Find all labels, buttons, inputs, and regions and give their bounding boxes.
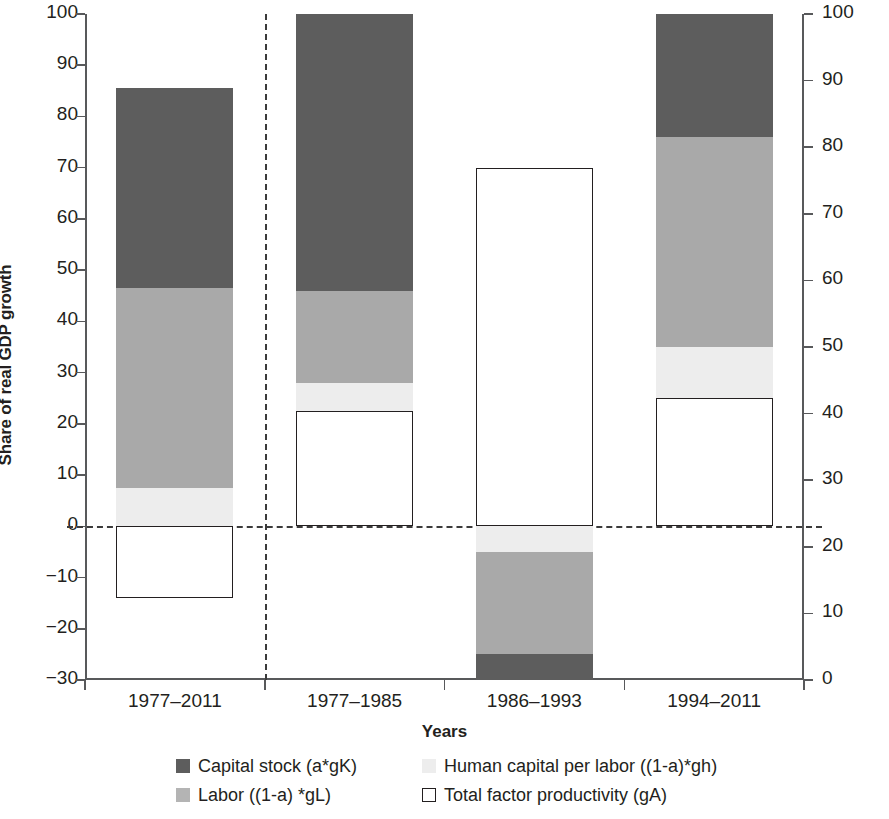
bar-segment-human-capital-per-labor[interactable] xyxy=(476,526,593,552)
plot-area xyxy=(85,14,804,680)
y-tick-label-right: 90 xyxy=(822,68,882,90)
legend-item[interactable]: Human capital per labor ((1-a)*gh) xyxy=(422,756,717,776)
bar-segment-labor[interactable] xyxy=(116,288,233,488)
bar-segment-total-factor-productivity[interactable] xyxy=(296,411,413,526)
bar-segment-labor[interactable] xyxy=(656,137,773,347)
y-tick-mark-right xyxy=(804,346,813,348)
y-axis-left-ticks: 1009080706050403020100−10−20−30 xyxy=(20,0,78,819)
bar-segment-labor[interactable] xyxy=(296,291,413,383)
y-tick-label-left: 20 xyxy=(22,411,78,433)
bar-segment-total-factor-productivity[interactable] xyxy=(656,398,773,526)
y-tick-label-right: 100 xyxy=(822,1,882,23)
y-tick-mark-right xyxy=(804,679,813,681)
y-tick-mark-right xyxy=(804,546,813,548)
y-tick-mark-right xyxy=(804,479,813,481)
y-tick-mark-left xyxy=(76,13,85,15)
x-tick-mark xyxy=(624,680,626,690)
y-tick-mark-right xyxy=(804,80,813,82)
bar-group[interactable] xyxy=(296,14,413,680)
y-tick-mark-left xyxy=(76,628,85,630)
bar-group[interactable] xyxy=(116,14,233,680)
legend-swatch-labor-icon xyxy=(176,788,190,802)
bar-segment-labor[interactable] xyxy=(476,552,593,654)
bar-segment-capital-stock[interactable] xyxy=(656,14,773,137)
y-tick-mark-left xyxy=(76,64,85,66)
y-tick-mark-left xyxy=(76,423,85,425)
y-tick-mark-left xyxy=(76,269,85,271)
y-tick-mark-right xyxy=(804,413,813,415)
period-separator-line xyxy=(265,14,267,680)
y-tick-label-right: 30 xyxy=(822,467,882,489)
legend-label: Human capital per labor ((1-a)*gh) xyxy=(444,756,717,776)
y-tick-mark-right xyxy=(804,13,813,15)
bar-group[interactable] xyxy=(656,14,773,680)
y-tick-label-right: 20 xyxy=(822,534,882,556)
x-tick-label: 1994–2011 xyxy=(624,690,804,712)
y-tick-label-right: 0 xyxy=(822,667,882,689)
y-tick-label-left: 80 xyxy=(22,103,78,125)
bar-segment-human-capital-per-labor[interactable] xyxy=(296,383,413,411)
bar-segment-capital-stock[interactable] xyxy=(116,88,233,288)
bar-segment-human-capital-per-labor[interactable] xyxy=(116,488,233,526)
y-tick-label-right: 60 xyxy=(822,267,882,289)
y-tick-label-right: 10 xyxy=(822,600,882,622)
x-tick-label: 1977–2011 xyxy=(85,690,265,712)
legend-swatch-human-icon xyxy=(422,759,436,773)
y-tick-label-left: −30 xyxy=(22,667,78,689)
y-tick-mark-left xyxy=(76,116,85,118)
legend-item[interactable]: Total factor productivity (gA) xyxy=(422,785,667,805)
y-tick-label-left: 40 xyxy=(22,308,78,330)
legend-row: Labor ((1-a) *gL)Total factor productivi… xyxy=(176,785,796,811)
bar-segment-capital-stock[interactable] xyxy=(476,654,593,680)
y-axis-left-spine xyxy=(85,14,87,680)
y-tick-label-left: −20 xyxy=(22,616,78,638)
y-tick-label-left: 10 xyxy=(22,462,78,484)
y-tick-label-left: 0 xyxy=(22,513,78,535)
x-tick-mark xyxy=(84,680,86,690)
y-tick-mark-left xyxy=(76,167,85,169)
chart-legend: Capital stock (a*gK)Human capital per la… xyxy=(176,756,796,814)
x-tick-label: 1977–1985 xyxy=(265,690,445,712)
y-tick-mark-left xyxy=(76,321,85,323)
y-tick-mark-right xyxy=(804,213,813,215)
y-tick-label-left: −10 xyxy=(22,565,78,587)
y-tick-label-left: 60 xyxy=(22,206,78,228)
y-tick-mark-left xyxy=(76,577,85,579)
y-tick-mark-right xyxy=(804,613,813,615)
legend-row: Capital stock (a*gK)Human capital per la… xyxy=(176,756,796,782)
chart-figure: Share of real GDP growth 100908070605040… xyxy=(0,0,889,819)
x-tick-label: 1986–1993 xyxy=(444,690,624,712)
bar-segment-total-factor-productivity[interactable] xyxy=(116,526,233,598)
y-tick-label-right: 40 xyxy=(822,401,882,423)
x-tick-mark xyxy=(803,680,805,690)
y-tick-mark-left xyxy=(76,372,85,374)
legend-item[interactable]: Labor ((1-a) *gL) xyxy=(176,785,331,805)
y-tick-label-left: 50 xyxy=(22,257,78,279)
y-tick-label-right: 80 xyxy=(822,134,882,156)
x-tick-mark xyxy=(444,680,446,690)
y-tick-label-left: 90 xyxy=(22,52,78,74)
y-tick-mark-left xyxy=(76,218,85,220)
x-axis-title: Years xyxy=(0,722,889,742)
legend-item[interactable]: Capital stock (a*gK) xyxy=(176,756,357,776)
y-tick-label-right: 50 xyxy=(822,334,882,356)
legend-label: Labor ((1-a) *gL) xyxy=(198,785,331,805)
y-tick-label-left: 30 xyxy=(22,360,78,382)
bar-segment-human-capital-per-labor[interactable] xyxy=(656,347,773,398)
y-tick-label-left: 70 xyxy=(22,155,78,177)
bar-segment-capital-stock[interactable] xyxy=(296,14,413,291)
y-tick-mark-left xyxy=(76,474,85,476)
legend-label: Total factor productivity (gA) xyxy=(444,785,667,805)
legend-swatch-capital-icon xyxy=(176,759,190,773)
legend-label: Capital stock (a*gK) xyxy=(198,756,357,776)
y-tick-mark-right xyxy=(804,280,813,282)
y-tick-label-right: 70 xyxy=(822,201,882,223)
y-tick-mark-right xyxy=(804,146,813,148)
y-axis-title-text: Share of real GDP growth xyxy=(0,175,16,555)
bar-segment-total-factor-productivity[interactable] xyxy=(476,168,593,527)
y-tick-label-left: 100 xyxy=(22,1,78,23)
y-axis-title: Share of real GDP growth xyxy=(0,0,22,175)
bar-group[interactable] xyxy=(476,14,593,680)
legend-swatch-tfp-icon xyxy=(422,788,436,802)
x-tick-mark xyxy=(264,680,266,690)
